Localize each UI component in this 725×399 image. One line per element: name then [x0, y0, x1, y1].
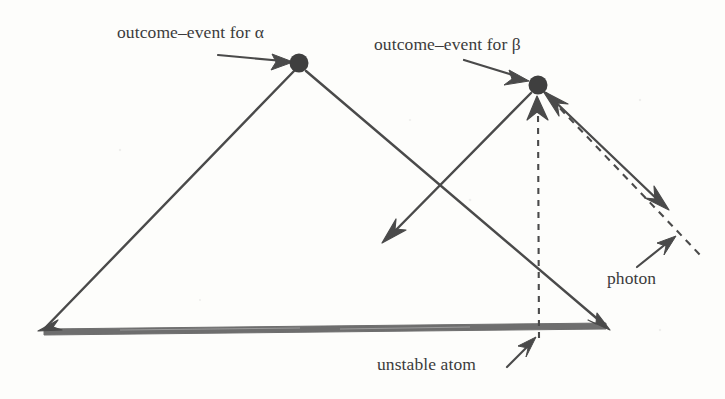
- alpha-scattered-ray: [382, 93, 531, 243]
- photon-pointer-arrowhead: [657, 236, 676, 255]
- alpha-left-light-ray: [38, 69, 296, 331]
- label-unstable-atom: unstable atom: [377, 356, 476, 374]
- beta-pointer-arrowhead: [504, 70, 529, 85]
- atom-pointer-line: [507, 345, 529, 367]
- beta-label-pointer: [464, 60, 529, 85]
- label-outcome-event-beta: outcome–event for β: [374, 36, 521, 54]
- worldline-bar: [44, 323, 606, 335]
- unstable-atom-label-pointer: [507, 337, 536, 367]
- atom-dashed-vertical: [527, 96, 548, 338]
- atom-dashed-line: [538, 108, 539, 338]
- spacetime-diagram: outcome–event for α outcome–event for β …: [0, 0, 725, 399]
- alpha-event-dot: [290, 54, 309, 73]
- scan-noise: [119, 99, 661, 331]
- scattered-ray-line: [390, 93, 531, 236]
- alpha-left-ray-line: [45, 69, 296, 328]
- photon-dashed-line: [551, 99, 703, 258]
- beta-right-ray-line: [546, 93, 660, 202]
- label-photon: photon: [607, 270, 656, 288]
- photon-label-pointer: [637, 236, 676, 267]
- label-outcome-event-alpha: outcome–event for α: [117, 24, 264, 42]
- photon-dashed-worldline: [543, 91, 703, 258]
- beta-event-dot: [529, 76, 548, 95]
- beta-right-light-ray: [546, 93, 669, 210]
- alpha-label-pointer: [218, 54, 293, 70]
- diagram-canvas: [0, 0, 725, 399]
- unstable-atom-worldline: [44, 323, 606, 335]
- photon-pointer-line: [637, 243, 667, 267]
